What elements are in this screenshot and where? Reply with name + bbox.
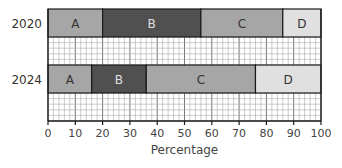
- x-tick-label: 20: [96, 127, 110, 140]
- x-tick-label: 50: [178, 127, 192, 140]
- stacked-bar-chart: ABCD2020ABCD20240102030405060708090100Pe…: [0, 0, 342, 168]
- x-tick-label: 90: [287, 127, 301, 140]
- x-tick-label: 10: [68, 127, 82, 140]
- x-tick-label: 80: [259, 127, 273, 140]
- x-axis-label: Percentage: [151, 143, 219, 157]
- segment-label: C: [238, 17, 246, 31]
- segment-label: A: [71, 17, 80, 31]
- x-tick-label: 30: [123, 127, 137, 140]
- x-tick-label: 0: [45, 127, 52, 140]
- x-tick-label: 60: [205, 127, 219, 140]
- segment-label: B: [115, 73, 123, 87]
- segment-label: D: [297, 17, 306, 31]
- segment-label: B: [148, 17, 156, 31]
- segment-label: A: [66, 73, 75, 87]
- x-tick-label: 100: [311, 127, 332, 140]
- category-label: 2024: [11, 73, 42, 87]
- segment-label: D: [284, 73, 293, 87]
- x-tick-label: 70: [232, 127, 246, 140]
- segment-label: C: [197, 73, 205, 87]
- x-tick-label: 40: [150, 127, 164, 140]
- category-label: 2020: [11, 17, 42, 31]
